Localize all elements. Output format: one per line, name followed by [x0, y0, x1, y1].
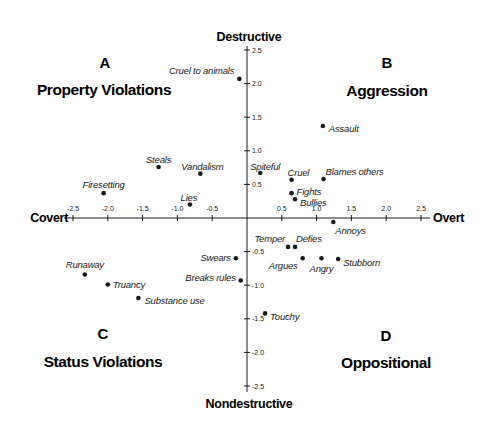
conduct-problems-scatter-chart: -2.5-2.0-1.5-1.0-0.50.51.01.52.02.5 2.52…: [0, 0, 486, 430]
y-tick-label: -2.5: [252, 383, 264, 390]
data-point: Argues: [268, 256, 305, 271]
data-point-marker: [321, 124, 326, 129]
data-point-marker: [263, 311, 268, 316]
quadrant-d-letter: D: [381, 327, 392, 344]
data-point: Temper: [254, 233, 290, 249]
x-axis-label-left: Covert: [30, 211, 69, 225]
quadrant-b-letter: B: [382, 54, 393, 71]
data-point: Touchy: [263, 311, 301, 322]
data-point-label: Vandalism: [181, 161, 223, 172]
data-point: Stubborn: [336, 257, 380, 268]
y-tick-label: -1.5: [252, 315, 264, 322]
data-point: Breaks rules: [185, 272, 243, 283]
data-point-label: Truancy: [113, 279, 147, 290]
data-point-label: Spiteful: [250, 161, 281, 172]
x-ticks: -2.5-2.0-1.5-1.0-0.50.51.01.52.02.5: [67, 205, 426, 221]
x-tick-label: 0.5: [277, 205, 287, 212]
data-point-marker: [234, 256, 239, 261]
data-point-marker: [198, 171, 203, 176]
data-point: Annoys: [331, 220, 366, 236]
quadrant-c-title: Status Violations: [44, 353, 163, 370]
data-point-marker: [238, 278, 243, 283]
x-tick-label: 2.0: [381, 205, 391, 212]
data-point-marker: [156, 165, 161, 170]
data-point-marker: [331, 220, 336, 225]
data-point: Runaway: [66, 259, 106, 276]
y-axis-label-top: Destructive: [217, 30, 282, 44]
quadrant-c-letter: C: [98, 325, 109, 342]
y-tick-label: 2.0: [252, 80, 262, 87]
y-tick-label: -0.5: [252, 248, 264, 255]
data-point-marker: [188, 202, 193, 207]
x-axis-label-right: Overt: [433, 211, 465, 225]
data-point-label: Touchy: [270, 311, 301, 322]
quadrant-a-letter: A: [100, 54, 111, 71]
x-tick-label: -2.5: [67, 205, 79, 212]
data-point: Blames others: [321, 166, 384, 181]
data-point: Defies: [293, 233, 322, 249]
data-point: Steals: [146, 154, 172, 169]
data-point-marker: [293, 197, 298, 202]
data-point: Angry: [309, 256, 335, 274]
y-tick-label: 2.5: [252, 47, 262, 54]
data-point: Cruel: [288, 167, 311, 182]
data-point-marker: [321, 177, 326, 182]
data-point-marker: [101, 191, 106, 196]
x-tick-label: -1.5: [137, 205, 149, 212]
data-point-label: Cruel to animals: [169, 65, 235, 76]
quadrant-d-title: Oppositional: [341, 354, 431, 371]
x-tick-label: 2.5: [416, 205, 426, 212]
data-point-marker: [336, 257, 341, 262]
data-point-label: Breaks rules: [185, 272, 236, 283]
data-point-label: Fights: [297, 186, 322, 197]
data-point-marker: [293, 245, 298, 250]
data-point-label: Stubborn: [343, 257, 380, 268]
quadrant-a-title: Property Violations: [37, 81, 171, 98]
data-point-marker: [289, 191, 294, 196]
data-point: Vandalism: [181, 161, 223, 176]
data-point-marker: [237, 77, 242, 82]
data-point: Firesetting: [83, 179, 126, 195]
y-tick-label: 1.5: [252, 114, 262, 121]
data-point-label: Blames others: [326, 166, 385, 177]
x-tick-label: -2.0: [102, 205, 114, 212]
data-point-label: Argues: [268, 260, 298, 271]
data-point: Truancy: [106, 279, 147, 290]
data-point-label: Substance use: [144, 295, 204, 306]
data-point-label: Firesetting: [83, 179, 126, 190]
data-point-label: Runaway: [66, 259, 106, 270]
x-tick-label: 1.5: [347, 205, 357, 212]
data-point-label: Defies: [296, 233, 322, 244]
data-point-marker: [83, 272, 88, 277]
data-point-label: Angry: [309, 263, 335, 274]
data-point-marker: [289, 177, 294, 182]
quadrant-b-title: Aggression: [346, 82, 427, 99]
data-point: Cruel to animals: [169, 65, 242, 81]
data-point-label: Swears: [200, 252, 231, 263]
data-point-label: Steals: [146, 154, 172, 165]
x-tick-label: -1.0: [171, 205, 183, 212]
data-point: Bullies: [293, 197, 327, 208]
data-point-label: Assault: [328, 123, 359, 134]
y-tick-label: -1.0: [252, 282, 264, 289]
x-tick-label: -0.5: [206, 205, 218, 212]
data-point-label: Annoys: [334, 225, 366, 236]
data-point: Spiteful: [250, 161, 281, 175]
data-point-marker: [300, 256, 305, 261]
data-point: Fights: [289, 186, 321, 197]
data-points: Cruel to animalsAssaultStealsVandalismFi…: [66, 65, 384, 323]
data-point-marker: [136, 296, 141, 301]
data-point-marker: [286, 245, 291, 250]
data-point-label: Temper: [254, 233, 286, 244]
quadrant-labels: A Property Violations B Aggression C Sta…: [37, 54, 431, 371]
data-point: Assault: [321, 123, 360, 134]
data-point: Substance use: [136, 295, 205, 306]
data-point: Swears: [200, 252, 238, 263]
y-tick-label: -2.0: [252, 349, 264, 356]
data-point-marker: [319, 256, 324, 261]
y-axis-label-bottom: Nondestructive: [206, 397, 293, 411]
y-tick-label: 0.5: [252, 181, 262, 188]
data-point-label: Cruel: [288, 167, 311, 178]
y-tick-label: 1.0: [252, 147, 262, 154]
data-point-label: Lies: [181, 192, 198, 203]
